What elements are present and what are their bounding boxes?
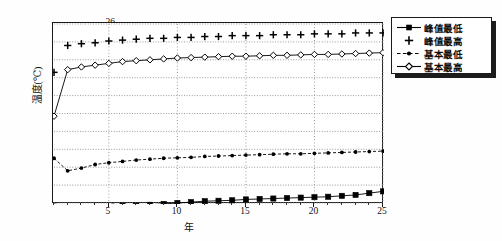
data-point-marker bbox=[53, 113, 57, 119]
legend-item-label: 峰值最高 bbox=[424, 34, 463, 48]
x-minor-tick-mark bbox=[286, 203, 287, 205]
data-point-marker bbox=[298, 195, 303, 200]
x-minor-tick-mark bbox=[368, 203, 369, 205]
x-axis-title: 年 bbox=[184, 219, 194, 234]
data-point-marker bbox=[340, 151, 344, 155]
data-point-marker bbox=[160, 56, 166, 62]
x-minor-tick-mark bbox=[300, 203, 301, 205]
filled-square-icon bbox=[396, 21, 422, 34]
data-point-marker bbox=[270, 52, 276, 58]
data-point-marker bbox=[311, 51, 317, 57]
x-minor-tick-mark bbox=[272, 203, 273, 205]
data-point-marker bbox=[284, 52, 290, 58]
data-point-marker bbox=[379, 29, 384, 36]
data-point-marker bbox=[162, 156, 166, 160]
series-4 bbox=[53, 49, 384, 119]
data-point-marker bbox=[215, 53, 221, 59]
data-point-marker bbox=[243, 53, 249, 59]
data-point-marker bbox=[175, 156, 179, 160]
data-point-marker bbox=[80, 166, 84, 170]
data-point-marker bbox=[270, 31, 277, 38]
data-point-marker bbox=[147, 57, 153, 63]
data-point-marker bbox=[311, 30, 318, 37]
legend-item-2[interactable]: 峰值最高 bbox=[396, 34, 491, 47]
x-minor-tick-mark bbox=[327, 203, 328, 205]
data-point-marker bbox=[326, 151, 330, 155]
series-line bbox=[54, 53, 383, 117]
data-point-marker bbox=[366, 29, 373, 36]
x-minor-tick-mark bbox=[355, 203, 356, 205]
x-minor-tick-mark bbox=[67, 203, 68, 205]
data-point-marker bbox=[258, 153, 262, 157]
data-point-marker bbox=[202, 54, 208, 60]
x-minor-tick-mark bbox=[80, 203, 81, 205]
data-point-marker bbox=[105, 37, 112, 44]
y-axis-title: 温度(℃) bbox=[29, 46, 44, 126]
data-point-marker bbox=[256, 32, 263, 39]
series-1 bbox=[53, 189, 384, 204]
small-filled-circle-icon bbox=[396, 47, 422, 60]
data-point-marker bbox=[121, 159, 125, 163]
legend-item-4[interactable]: 基本最高 bbox=[396, 60, 491, 73]
data-point-marker bbox=[92, 62, 98, 68]
data-point-marker bbox=[229, 32, 236, 39]
x-minor-tick-mark bbox=[163, 203, 164, 205]
data-point-marker bbox=[174, 55, 180, 61]
data-point-marker bbox=[134, 158, 138, 162]
x-tick-label: 10 bbox=[161, 207, 191, 217]
x-minor-tick-mark bbox=[53, 203, 54, 205]
data-point-marker bbox=[325, 51, 331, 57]
data-point-marker bbox=[242, 32, 249, 39]
data-point-marker bbox=[380, 49, 384, 55]
data-point-marker bbox=[313, 151, 317, 155]
series-3 bbox=[53, 149, 384, 172]
data-point-marker bbox=[107, 161, 111, 165]
data-point-marker bbox=[203, 155, 207, 159]
data-point-marker bbox=[325, 30, 332, 37]
legend-item-label: 峰值最低 bbox=[424, 21, 463, 35]
x-minor-tick-mark bbox=[231, 203, 232, 205]
data-point-marker bbox=[297, 31, 304, 38]
data-point-marker bbox=[133, 36, 140, 43]
data-point-marker bbox=[146, 35, 153, 42]
data-point-marker bbox=[230, 154, 234, 158]
data-point-marker bbox=[257, 196, 262, 201]
legend-box: 峰值最低峰值最高基本最低基本最高 bbox=[391, 17, 492, 74]
x-minor-tick-mark bbox=[149, 203, 150, 205]
data-point-marker bbox=[215, 33, 222, 40]
data-point-marker bbox=[92, 39, 99, 46]
data-point-marker bbox=[338, 30, 345, 37]
data-point-marker bbox=[283, 31, 290, 38]
data-point-marker bbox=[299, 152, 303, 156]
data-point-marker bbox=[271, 196, 276, 201]
x-minor-tick-mark bbox=[218, 203, 219, 205]
data-point-marker bbox=[174, 34, 181, 41]
data-point-marker bbox=[312, 195, 317, 200]
data-point-marker bbox=[366, 50, 372, 56]
data-point-marker bbox=[187, 34, 194, 41]
x-tick-label: 20 bbox=[298, 207, 328, 217]
data-point-marker bbox=[189, 155, 193, 159]
data-point-marker bbox=[53, 69, 58, 76]
legend-item-label: 基本最高 bbox=[424, 60, 463, 74]
data-point-marker bbox=[119, 58, 125, 64]
data-point-marker bbox=[380, 189, 384, 194]
data-point-marker bbox=[201, 33, 208, 40]
legend-item-1[interactable]: 峰值最低 bbox=[396, 21, 491, 34]
data-point-marker bbox=[66, 169, 70, 173]
x-minor-tick-mark bbox=[259, 203, 260, 205]
x-minor-tick-mark bbox=[341, 203, 342, 205]
data-point-marker bbox=[93, 163, 97, 167]
data-point-marker bbox=[326, 194, 331, 199]
data-point-marker bbox=[339, 51, 345, 57]
x-minor-tick-mark bbox=[94, 203, 95, 205]
data-point-marker bbox=[229, 53, 235, 59]
data-point-marker bbox=[354, 150, 358, 154]
open-diamond-icon bbox=[396, 60, 422, 73]
legend-item-3[interactable]: 基本最低 bbox=[396, 47, 491, 60]
data-point-marker bbox=[148, 157, 152, 161]
data-point-marker bbox=[78, 64, 84, 70]
data-point-marker bbox=[339, 193, 344, 198]
data-point-marker bbox=[284, 195, 289, 200]
data-point-marker bbox=[367, 150, 371, 154]
